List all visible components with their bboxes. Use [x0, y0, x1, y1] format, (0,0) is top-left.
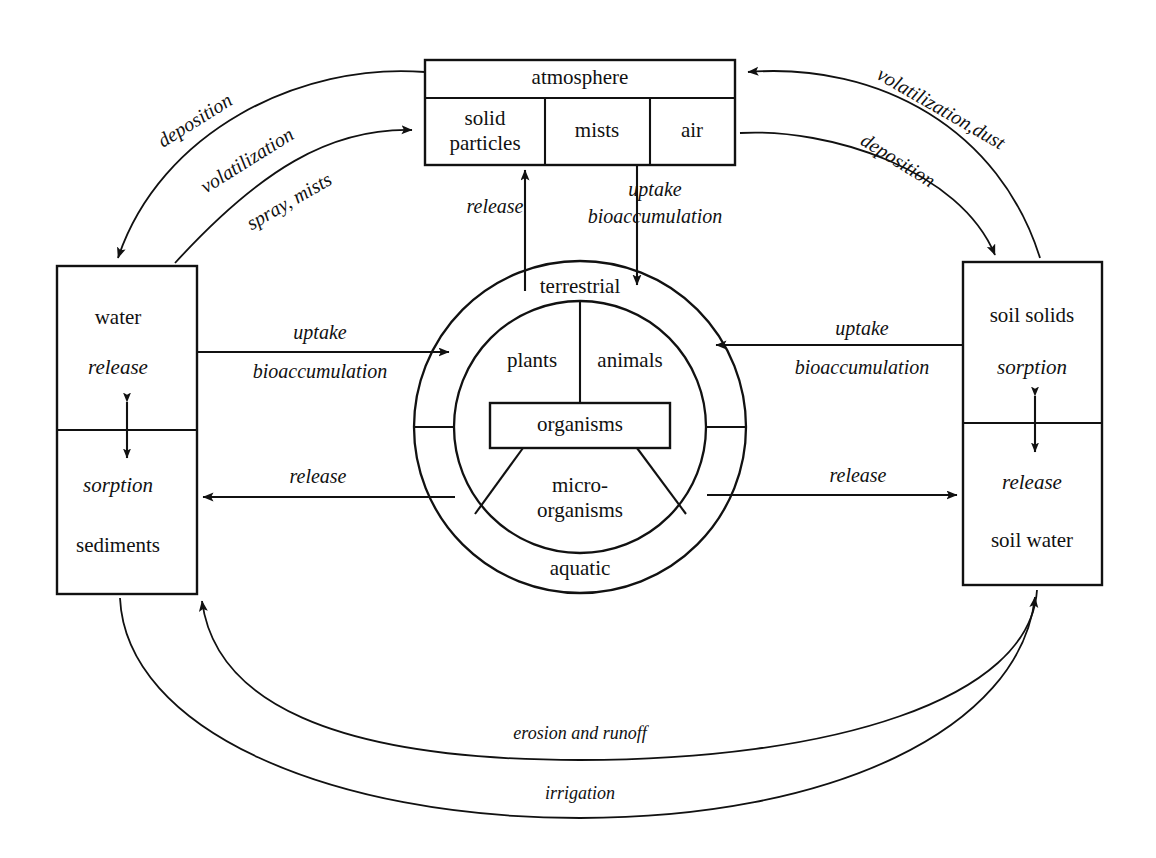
organisms-label: organisms	[537, 412, 623, 436]
uptake-from-soil-label-line2: bioaccumulation	[795, 356, 929, 378]
atmosphere-header-label: atmosphere	[532, 65, 629, 89]
inner-divider-diagonal-right	[637, 448, 686, 514]
volatilization-dust-label: volatilization,dust	[873, 62, 1009, 153]
plants-label: plants	[507, 348, 557, 372]
micro-organisms-label-line2: organisms	[537, 498, 623, 522]
atmosphere-solid-particles-label-line2: particles	[449, 131, 520, 155]
soil-water-label: soil water	[991, 528, 1073, 552]
water-organism-flows: uptake bioaccumulation release	[197, 321, 455, 497]
soil-solids-sorption-label: sorption	[997, 355, 1067, 379]
micro-organisms-label-line1: micro-	[552, 473, 608, 497]
soil-water-release-label: release	[1002, 470, 1062, 494]
inner-divider-diagonal-left	[475, 448, 523, 514]
uptake-from-water-label-line2: bioaccumulation	[253, 360, 387, 382]
uptake-from-water-label-line1: uptake	[293, 321, 346, 344]
volatilization-from-water-label-line2: spray, mists	[242, 168, 335, 235]
erosion-runoff-label: erosion and runoff	[513, 723, 649, 743]
uptake-from-atmosphere-label-line2: bioaccumulation	[588, 205, 722, 227]
diagram-canvas: atmosphere solid particles mists air wat…	[0, 0, 1156, 858]
atmosphere-mists-label: mists	[575, 118, 619, 142]
bottom-transport-curves: erosion and runoff irrigation	[120, 590, 1037, 818]
environmental-fate-diagram: atmosphere solid particles mists air wat…	[0, 0, 1156, 858]
atmosphere-water-curves: deposition volatilization spray, mists	[118, 71, 425, 263]
terrestrial-label: terrestrial	[540, 274, 621, 298]
atmosphere-node: atmosphere solid particles mists air	[425, 60, 735, 165]
release-to-soil-label: release	[829, 464, 886, 486]
release-to-water-label: release	[289, 465, 346, 487]
water-sediments-node: water release sorption sediments	[57, 266, 197, 594]
soil-solids-label: soil solids	[990, 303, 1075, 327]
uptake-from-soil-label-line1: uptake	[835, 317, 888, 340]
organisms-node: terrestrial aquatic plants animals micro…	[414, 261, 746, 593]
irrigation-label: irrigation	[545, 783, 615, 803]
deposition-to-soil-label: deposition	[857, 129, 940, 193]
deposition-to-water-label: deposition	[154, 89, 237, 153]
sediments-label: sediments	[76, 533, 160, 557]
atmosphere-soil-curves: volatilization,dust deposition	[740, 62, 1040, 258]
atmosphere-solid-particles-label-line1: solid	[465, 106, 506, 130]
sediments-sorption-label: sorption	[83, 473, 153, 497]
water-label: water	[95, 305, 142, 329]
aquatic-label: aquatic	[550, 556, 611, 580]
release-to-atmosphere-label: release	[466, 195, 523, 217]
water-release-label: release	[88, 355, 148, 379]
soil-node: soil solids sorption release soil water	[963, 262, 1102, 585]
atmosphere-organism-flows: release uptake bioaccumulation	[466, 165, 722, 291]
uptake-from-atmosphere-label-line1: uptake	[628, 178, 681, 201]
atmosphere-air-label: air	[681, 118, 703, 142]
animals-label: animals	[597, 348, 662, 372]
deposition-to-water-curve	[118, 71, 425, 258]
